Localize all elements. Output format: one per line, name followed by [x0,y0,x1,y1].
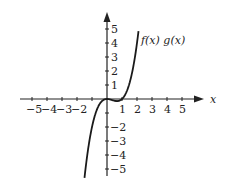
x-axis-label: x [210,93,217,106]
y-tick-label: 5 [111,23,118,36]
x-tick-label: −2 [71,103,87,116]
x-tick-labels: −5−4−3−212345 [26,103,186,116]
x-tick-label: −5 [26,103,42,116]
curve-label: f(x) g(x) [140,34,185,47]
x-tick-label: 1 [119,103,126,116]
y-tick-label: 2 [111,65,118,78]
x-tick-label: 4 [164,103,171,116]
y-tick-label: −3 [110,135,126,148]
function-graph: −5−4−3−212345 54321−2−3−4−5 x f(x) g(x) [0,0,229,185]
x-tick-label: −3 [56,103,72,116]
y-tick-label: 4 [111,37,118,50]
x-tick-label: 3 [149,103,156,116]
y-tick-label: −5 [110,163,126,176]
y-tick-label: 3 [111,51,118,64]
y-tick-label: 1 [111,79,118,92]
y-axis-arrow-icon [104,12,111,22]
x-tick-label: 2 [134,103,141,116]
x-tick-label: −4 [41,103,57,116]
y-tick-label: −2 [110,121,126,134]
y-tick-label: −4 [110,149,126,162]
plot-canvas: −5−4−3−212345 54321−2−3−4−5 x f(x) g(x) [0,0,229,185]
x-axis-arrow-icon [194,96,204,103]
x-tick-label: 5 [179,103,186,116]
